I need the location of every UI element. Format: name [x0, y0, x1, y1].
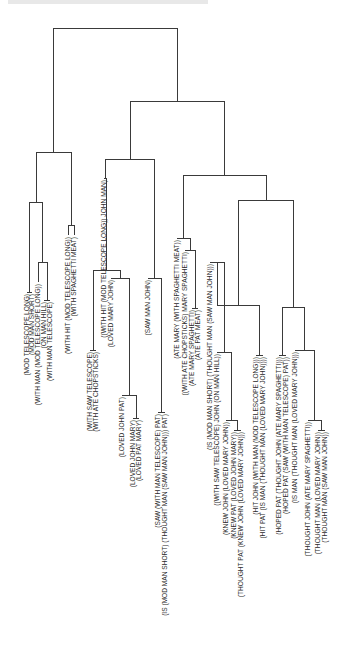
- leaf-label: (ATE MARY (WITH SPAGHETTI MEAT)): [173, 240, 181, 359]
- leaf-label: (ATE PAT MEAT): [194, 310, 202, 360]
- leaf-label: (THOUGHT MAN (SAW MAN JOHN)): [321, 432, 329, 543]
- leaf-label: (SAW MAN JOHN): [144, 280, 152, 335]
- leaf-label: ((WITH SAW TELESCOPE) JOHN (ON MAN HILL)…: [213, 354, 221, 506]
- leaf-label: (WITH ATE CHOPSTICKS): [92, 352, 100, 432]
- leaf-label: (IS MAN (THOUGHT MAN (LOVED MARY JOHN))): [291, 352, 299, 503]
- leaf-label: (THOUGHT JOHN (ATE MARY SPAGHETTI)): [304, 422, 312, 557]
- leaf-label: (HOPED PAT (SAW (WITH MAN TELESCOPE) PAT…: [282, 357, 290, 514]
- leaf-label: (LOVED PAT MARY): [135, 420, 143, 481]
- leaf-labels: (MOD TELESCOPE LONG)(MOD MAN SHORT)(WITH…: [23, 180, 329, 616]
- leaf-label: (KNEW JOHN (LOVED MARY JOHN)): [222, 422, 230, 535]
- dendrogram: (MOD TELESCOPE LONG)(MOD MAN SHORT)(WITH…: [0, 0, 347, 668]
- leaf-label: (THOUGHT PAT (KNEW JOHN (LOVED MARY JOHN…: [237, 432, 245, 597]
- leaf-label: (WITH SPAGHETTI MEAT): [70, 237, 78, 317]
- leaf-label: (LOVED JOHN PAT): [118, 397, 126, 457]
- leaf-label: (LOVED MARY JOHN): [107, 280, 115, 347]
- leaf-label: (IS (MOD MAN SHORT) (THOUGHT MAN (SAW MA…: [161, 414, 169, 616]
- leaf-label: (WITH MAN TELESCOPE): [46, 302, 54, 381]
- leaf-label: (HIT PAT (IS MAN (THOUGHT MAN (LOVED MAR…: [259, 357, 267, 539]
